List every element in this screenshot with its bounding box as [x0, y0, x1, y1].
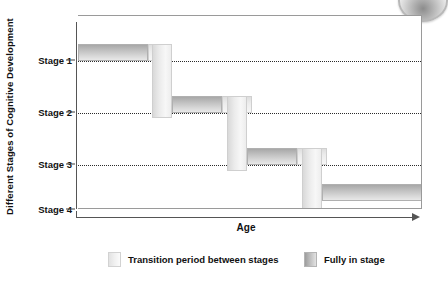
y-tick-mark-4	[66, 209, 75, 210]
y-tick-mark-2	[66, 112, 75, 113]
bar-segment-s3-to-s4-riser	[302, 148, 322, 209]
legend-label-1: Transition period between stages	[128, 254, 278, 265]
y-tick-label-4: Stage 4	[20, 204, 72, 215]
y-axis-tick-labels: Stage 1Stage 2Stage 3Stage 4	[20, 0, 72, 282]
gridline-stage-3	[78, 165, 421, 166]
legend-label-2: Fully in stage	[324, 254, 385, 265]
bar-segment-s2-to-s3-riser	[227, 96, 247, 171]
bar-segment-s4-plateau-full	[322, 184, 422, 201]
y-tick-label-2: Stage 2	[20, 107, 72, 118]
gridline-stage-1	[78, 61, 421, 62]
x-axis-title-label: Age	[76, 222, 416, 233]
y-axis-title: Different Stages of Cognitive Developmen…	[0, 0, 18, 232]
chart-plot-area	[78, 15, 422, 209]
x-axis-line	[76, 217, 416, 218]
x-axis-arrow-icon	[412, 213, 420, 221]
y-axis-title-label: Different Stages of Cognitive Developmen…	[4, 18, 15, 215]
legend-item-2: Fully in stage	[304, 252, 385, 267]
bar-segment-s1-plateau-full	[78, 44, 148, 61]
y-tick-label-3: Stage 3	[20, 159, 72, 170]
y-tick-label-1: Stage 1	[20, 55, 72, 66]
bar-segment-s1-to-s2-riser	[152, 44, 172, 118]
y-tick-mark-3	[66, 164, 75, 165]
legend-item-1: Transition period between stages	[108, 252, 278, 267]
gridline-stage-2	[78, 113, 421, 114]
legend-swatch-full-icon	[304, 252, 317, 267]
y-tick-mark-1	[66, 60, 75, 61]
bar-segment-s2-plateau-full	[172, 96, 222, 113]
bar-segment-s3-plateau-full	[247, 148, 297, 165]
legend-swatch-transition-icon	[108, 252, 121, 267]
chart-legend: Transition period between stagesFully in…	[78, 252, 422, 274]
